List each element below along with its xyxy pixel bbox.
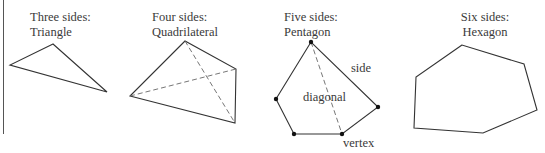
- vertex-dot: [292, 132, 296, 136]
- vertex-dot: [274, 97, 278, 101]
- quadrilateral-diagonal-1: [185, 41, 235, 123]
- triangle-shape: [10, 44, 107, 92]
- pentagon-diagonal: [311, 42, 342, 134]
- side-annotation: side: [351, 61, 372, 75]
- hexagon-shape: [414, 45, 537, 133]
- vertex-annotation: vertex: [343, 136, 375, 150]
- pentagon-shape: [276, 42, 378, 134]
- polygons-figure: side diagonal vertex: [0, 0, 545, 153]
- vertex-dot: [376, 105, 380, 109]
- quadrilateral-shape: [130, 41, 236, 123]
- diagonal-annotation: diagonal: [303, 90, 347, 104]
- vertex-dot: [309, 40, 313, 44]
- quadrilateral-diagonal-2: [130, 69, 236, 96]
